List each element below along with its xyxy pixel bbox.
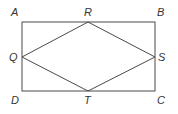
label-q: Q: [9, 51, 18, 63]
label-t: T: [84, 94, 92, 106]
label-d: D: [11, 94, 19, 106]
label-a: A: [10, 6, 18, 18]
label-r: R: [84, 6, 92, 18]
label-s: S: [158, 51, 166, 63]
rhombus-qrst: [22, 22, 155, 91]
label-b: B: [157, 6, 164, 18]
label-c: C: [157, 94, 165, 106]
rectangle-abcd: [22, 22, 155, 91]
geometry-diagram: A R B Q S D T C: [0, 0, 178, 114]
